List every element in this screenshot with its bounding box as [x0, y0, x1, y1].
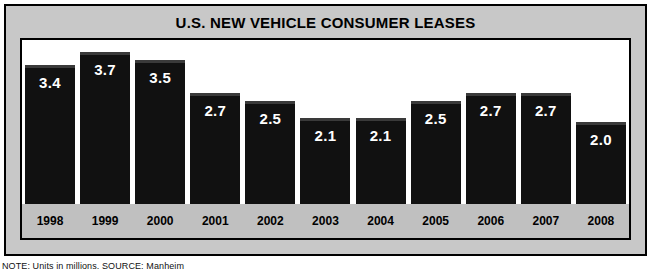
axis-tick-2001: 2001 [190, 214, 240, 228]
bar-2004: 2.1 [356, 118, 406, 204]
chart-frame: U.S. NEW VEHICLE CONSUMER LEASES 3.43.73… [4, 4, 647, 256]
bar-2003: 2.1 [300, 118, 350, 204]
bar-value-label: 3.7 [80, 61, 130, 78]
chart-footnote: NOTE: Units in millions. SOURCE: Manheim [2, 261, 184, 271]
plot-panel: 3.43.73.52.72.52.12.12.52.72.72.0 199819… [20, 38, 631, 240]
bar-value-label: 2.0 [576, 131, 626, 148]
plot-area: 3.43.73.52.72.52.12.12.52.72.72.0 [22, 40, 629, 204]
axis-tick-2000: 2000 [135, 214, 185, 228]
bar-2007: 2.7 [521, 93, 571, 204]
bar-2006: 2.7 [466, 93, 516, 204]
bar-2000: 3.5 [135, 60, 185, 204]
bar-value-label: 2.7 [190, 102, 240, 119]
axis-tick-2002: 2002 [245, 214, 295, 228]
bar-value-label: 3.5 [135, 69, 185, 86]
axis-tick-1998: 1998 [25, 214, 75, 228]
bar-value-label: 2.7 [466, 102, 516, 119]
category-axis: 1998199920002001200220032004200520062007… [22, 204, 629, 238]
bar-value-label: 2.5 [245, 110, 295, 127]
bar-1998: 3.4 [25, 65, 75, 204]
axis-tick-2008: 2008 [576, 214, 626, 228]
axis-tick-2004: 2004 [356, 214, 406, 228]
bar-2001: 2.7 [190, 93, 240, 204]
bar-series: 3.43.73.52.72.52.12.12.52.72.72.0 [25, 40, 626, 204]
bar-value-label: 3.4 [25, 74, 75, 91]
bar-value-label: 2.5 [411, 110, 461, 127]
axis-tick-2005: 2005 [411, 214, 461, 228]
bar-2008: 2.0 [576, 122, 626, 204]
chart-figure: U.S. NEW VEHICLE CONSUMER LEASES 3.43.73… [0, 0, 657, 273]
axis-tick-2007: 2007 [521, 214, 571, 228]
bar-1999: 3.7 [80, 52, 130, 204]
bar-value-label: 2.7 [521, 102, 571, 119]
axis-tick-1999: 1999 [80, 214, 130, 228]
axis-tick-2003: 2003 [300, 214, 350, 228]
axis-tick-2006: 2006 [466, 214, 516, 228]
bar-value-label: 2.1 [300, 127, 350, 144]
chart-title: U.S. NEW VEHICLE CONSUMER LEASES [6, 14, 645, 31]
bar-value-label: 2.1 [356, 127, 406, 144]
bar-2002: 2.5 [245, 101, 295, 204]
bar-2005: 2.5 [411, 101, 461, 204]
